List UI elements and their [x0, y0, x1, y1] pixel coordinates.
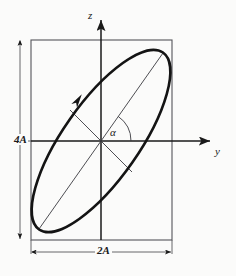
width-dimension-label: 2A: [95, 245, 112, 256]
rotation-direction-arrow-icon: [71, 92, 84, 107]
z-axis-label: z: [88, 10, 92, 21]
angle-arc: [118, 116, 131, 141]
height-dimension-label: 4A: [13, 134, 28, 145]
polarization-ellipse-figure: z y 4A 2A α: [0, 0, 236, 276]
angle-label-alpha: α: [110, 127, 116, 138]
y-axis-label: y: [215, 146, 220, 157]
figure-canvas: [0, 0, 236, 276]
